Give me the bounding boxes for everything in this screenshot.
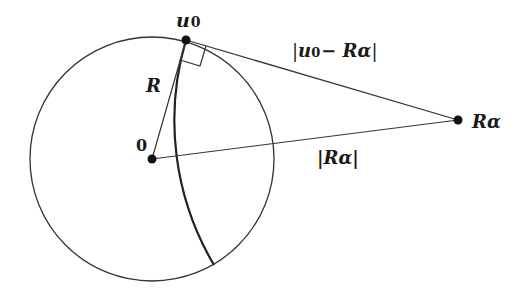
orthogonal-arc xyxy=(174,40,214,265)
origin-point xyxy=(148,155,157,164)
geometry-diagram: u0 R 0 |u0− Rα| Rα |Rα| xyxy=(0,0,531,294)
origin-label: 0 xyxy=(136,136,147,155)
tangent-length-label: |u0− Rα| xyxy=(292,40,377,62)
radius-label: R xyxy=(145,75,161,96)
u0-label: u0 xyxy=(176,9,201,31)
ralpha-point xyxy=(454,116,463,125)
origin-to-ralpha-segment xyxy=(152,120,458,159)
u0-point xyxy=(182,36,191,45)
radius-segment xyxy=(152,40,186,159)
ralpha-modulus-label: |Rα| xyxy=(317,147,359,169)
ralpha-label: Rα xyxy=(471,111,501,132)
